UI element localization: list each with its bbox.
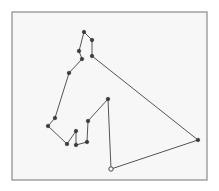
diagram-canvas (0, 0, 219, 191)
plot-frame (12, 12, 207, 180)
start-point-marker (109, 167, 113, 171)
vertex-point (90, 54, 94, 58)
vertex-point (106, 97, 110, 101)
vertex-point (77, 49, 81, 53)
vertex-point (74, 143, 78, 147)
vertex-point (82, 30, 86, 34)
vertex-point (53, 116, 57, 120)
vertex-point (46, 124, 50, 128)
vertex-point (196, 138, 200, 142)
vertex-point (86, 119, 90, 123)
vertex-point (67, 71, 71, 75)
vertex-point (74, 129, 78, 133)
vertex-point (80, 57, 84, 61)
vertex-point (85, 140, 89, 144)
vertex-point (65, 142, 69, 146)
vertex-point (90, 38, 94, 42)
